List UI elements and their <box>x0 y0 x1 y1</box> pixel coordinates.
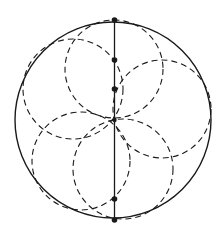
point-upper-mid <box>112 86 118 92</box>
dashed-circle-lower-left <box>32 112 130 210</box>
point-top <box>112 17 118 23</box>
point-bottom <box>112 217 118 223</box>
point-center <box>112 118 116 122</box>
dashed-circle-upper-left <box>23 39 123 139</box>
dashed-circle-right <box>113 60 211 158</box>
dashed-circle-lower-right <box>73 119 173 219</box>
point-upper <box>112 57 118 63</box>
circle-packing-diagram <box>0 0 221 239</box>
point-lower <box>112 196 118 202</box>
